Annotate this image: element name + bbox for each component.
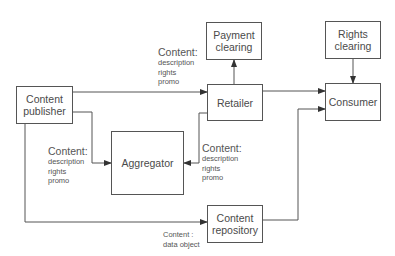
node-rights-clearing: Rights clearing (325, 21, 381, 59)
label-line: description (202, 154, 242, 164)
node-label: Payment clearing (213, 29, 254, 53)
edge-repository-to-consumer (263, 109, 325, 220)
label-head: Content: (202, 142, 242, 154)
node-content-repository: Content repository (207, 205, 263, 243)
node-label: Retailer (217, 97, 253, 109)
node-aggregator: Aggregator (111, 131, 184, 195)
label-line: description (158, 58, 198, 68)
label-head: Content: (158, 46, 198, 58)
node-label: Aggregator (122, 157, 174, 169)
node-payment-clearing: Payment clearing (206, 22, 262, 60)
label-line: Content : (163, 230, 200, 240)
label-line: rights (202, 164, 242, 174)
node-label: Rights clearing (335, 28, 372, 52)
node-content-publisher: Content publisher (16, 86, 73, 124)
label-retailer-to-aggregator: Content: description rights promo (202, 142, 242, 183)
label-publisher-to-aggregator: Content: description rights promo (48, 145, 88, 186)
label-line: description (48, 157, 88, 167)
label-line: promo (158, 77, 198, 87)
label-publisher-to-repository: Content : data object (163, 230, 200, 249)
node-label: Content repository (212, 212, 258, 236)
label-line: promo (48, 176, 88, 186)
node-label: Content publisher (23, 93, 66, 117)
label-line: promo (202, 173, 242, 183)
label-publisher-to-retailer: Content: description rights promo (158, 46, 198, 87)
label-line: data object (163, 240, 200, 250)
node-label: Consumer (329, 96, 377, 108)
node-retailer: Retailer (207, 84, 263, 121)
label-head: Content: (48, 145, 88, 157)
content-distribution-diagram: Content publisher Payment clearing Retai… (0, 0, 395, 256)
node-consumer: Consumer (325, 83, 381, 121)
label-line: rights (158, 68, 198, 78)
label-line: rights (48, 167, 88, 177)
